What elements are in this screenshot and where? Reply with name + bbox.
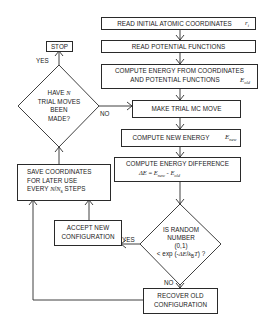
e-new-variable: Enew bbox=[225, 133, 237, 142]
trial-move-label: MAKE TRIAL MC MOVE bbox=[132, 105, 241, 113]
save-line2: FOR LATER USE bbox=[27, 177, 77, 185]
save-line3: EVERY N/Ns STEPS bbox=[27, 185, 86, 196]
compute-energy-line2: AND POTENTIAL FUNCTIONS bbox=[101, 76, 249, 84]
accept-line1: ACCEPT NEW bbox=[54, 224, 122, 232]
save-line1: SAVE COORDINATES bbox=[27, 168, 92, 176]
energy-difference-line1: COMPUTE ENERGY DIFFERENCE bbox=[114, 160, 241, 168]
recover-line1: RECOVER OLD bbox=[143, 292, 218, 300]
n-moves-line3: BEEN bbox=[18, 106, 100, 114]
random-test-line2: NUMBER bbox=[140, 234, 222, 242]
accept-line2: CONFIGURATION bbox=[54, 233, 122, 241]
stop-label: STOP bbox=[46, 43, 73, 51]
read-coordinates-label: READ INITIAL ATOMIC COORDINATES bbox=[101, 20, 248, 28]
read-potentials-label: READ POTENTIAL FUNCTIONS bbox=[101, 43, 256, 51]
compute-energy-line1: COMPUTE ENERGY FROM COORDINATES bbox=[101, 67, 258, 75]
edge-recover-to-save bbox=[33, 200, 143, 300]
energy-difference-equation: ΔE = Enew - Eold bbox=[139, 169, 180, 178]
random-yes-label: YES bbox=[122, 236, 135, 244]
n-moves-line1: HAVE N bbox=[18, 89, 100, 97]
random-test-line3: (0,1) bbox=[140, 242, 222, 250]
random-test-line1: IS RANDOM bbox=[140, 226, 222, 234]
compute-new-energy-label: COMPUTE NEW ENERGY bbox=[121, 134, 221, 142]
n-moves-line2: TRIAL MOVES bbox=[18, 98, 100, 106]
recover-line2: CONFIGURATION bbox=[143, 301, 218, 309]
n-moves-no-label: NO bbox=[100, 110, 110, 118]
e-old-variable: Eold bbox=[240, 76, 250, 85]
random-no-label: NO bbox=[164, 279, 174, 287]
n-moves-yes-label: YES bbox=[36, 57, 49, 65]
r-i-variable: ri bbox=[245, 19, 249, 28]
n-moves-line4: MADE? bbox=[18, 115, 100, 123]
random-test-line4: < exp (-ΔE/kBT) ? bbox=[140, 250, 222, 261]
